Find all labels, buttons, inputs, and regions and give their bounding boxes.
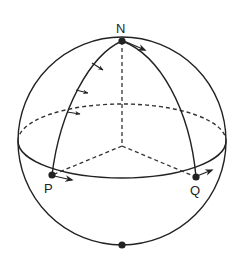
sphere-diagram: N P Q — [0, 0, 244, 273]
vector-arrow-n — [124, 41, 145, 50]
label-q: Q — [190, 183, 200, 198]
label-p: P — [44, 181, 53, 196]
vector-arrow — [76, 90, 88, 93]
point-south — [118, 241, 125, 248]
axis-to-q — [122, 146, 196, 177]
point-p — [48, 171, 55, 178]
vector-arrow-p — [54, 176, 72, 180]
vector-arrow-q — [197, 170, 212, 176]
point-n — [118, 37, 125, 44]
meridian-nq — [122, 41, 196, 177]
vector-arrow — [67, 112, 80, 114]
meridian-np — [52, 41, 122, 175]
vector-arrow — [92, 63, 103, 70]
sphere-svg: N P Q — [0, 0, 244, 273]
axis-to-p — [52, 146, 122, 175]
label-n: N — [116, 21, 125, 36]
point-q — [192, 173, 199, 180]
